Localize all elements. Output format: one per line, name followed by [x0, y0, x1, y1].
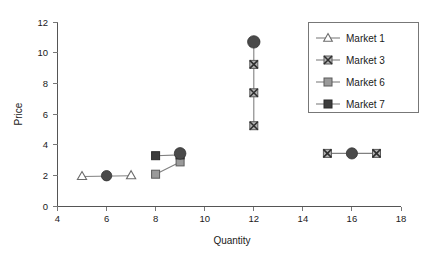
legend-item-market-3[interactable]: Market 3: [316, 55, 385, 66]
legend-marker-x-square-icon: [324, 56, 332, 64]
legend-label-market-1: Market 1: [346, 33, 385, 44]
legend-marker-gray-square-icon: [324, 78, 332, 86]
x-tick-label-10: 10: [199, 213, 210, 224]
y-tick-label-12: 12: [37, 17, 48, 28]
x-tick-label-8: 8: [153, 213, 158, 224]
marker-midpoint-p1: [101, 171, 111, 181]
marker-market-3-p2: [250, 89, 258, 97]
marker-midpoint-p2: [174, 148, 186, 160]
x-tick-label-4: 4: [55, 213, 60, 224]
y-tick-label-6: 6: [43, 109, 48, 120]
marker-midpoint-p4: [346, 148, 357, 159]
marker-market-6-p1: [152, 170, 160, 178]
y-tick-label-0: 0: [43, 201, 48, 212]
legend-item-market-7[interactable]: Market 7: [316, 99, 385, 110]
legend-marker-dark-square-icon: [324, 100, 332, 108]
marker-market-3-p5: [373, 149, 381, 157]
x-axis-title: Quantity: [213, 235, 250, 246]
marker-market-3-p1: [250, 60, 258, 68]
y-axis-title: Price: [13, 102, 24, 125]
y-tick-label-2: 2: [43, 170, 48, 181]
legend-item-market-6[interactable]: Market 6: [316, 77, 385, 88]
y-tick-label-10: 10: [37, 47, 48, 58]
y-tick-label-4: 4: [43, 139, 48, 150]
legend: Market 1 Market 3 Market 6: [309, 23, 419, 113]
marker-market-3-p3: [250, 122, 258, 130]
marker-market-7-p1: [152, 152, 160, 160]
x-tick-label-16: 16: [347, 213, 358, 224]
marker-midpoint-p3: [248, 36, 260, 48]
x-tick-label-6: 6: [104, 213, 109, 224]
y-tick-label-8: 8: [43, 78, 48, 89]
marker-market-3-p4: [323, 149, 331, 157]
x-tick-label-14: 14: [298, 213, 309, 224]
chart-container: 0 2 4 6 8 10 12 4 6 8 10 12 14 16: [0, 0, 426, 263]
x-tick-label-18: 18: [396, 213, 407, 224]
legend-label-market-3: Market 3: [346, 55, 385, 66]
x-tick-label-12: 12: [249, 213, 260, 224]
legend-label-market-7: Market 7: [346, 99, 385, 110]
scatter-plot: 0 2 4 6 8 10 12 4 6 8 10 12 14 16: [0, 0, 426, 263]
legend-label-market-6: Market 6: [346, 77, 385, 88]
